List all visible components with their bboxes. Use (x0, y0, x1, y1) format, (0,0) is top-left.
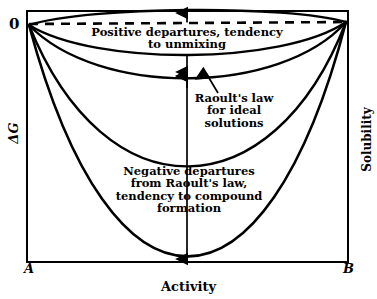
annotation-negative-departures: Negative departures from Raoult's law, t… (98, 165, 280, 215)
annotation-positive-departures: Positive departures, tendency to unmixin… (72, 26, 302, 51)
y-axis-zero-tick: 0 (9, 16, 19, 32)
annotation-raoult-law: Raoult's law for ideal solutions (178, 92, 290, 129)
y-axis-left-label: ΔG (7, 113, 21, 153)
free-energy-activity-diagram: 0 ΔG Solubility A B Activity Positive de… (0, 0, 377, 299)
x-axis-end-label: B (343, 262, 354, 276)
x-axis-label: Activity (0, 280, 377, 294)
y-axis-right-label: Solubility (361, 99, 374, 179)
x-axis-start-label: A (24, 262, 34, 276)
